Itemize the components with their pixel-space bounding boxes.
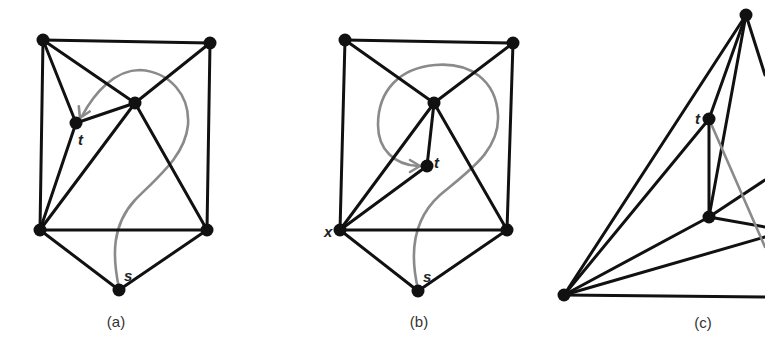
graph-edge	[43, 40, 210, 43]
caption-b: (b)	[410, 313, 428, 330]
graph-edge	[40, 103, 135, 230]
panel-b-graph: tsx	[323, 34, 520, 298]
graph-edge	[345, 40, 513, 43]
vertex-label: s	[423, 268, 431, 285]
panel-a-graph: ts	[34, 34, 217, 297]
vertex-t	[703, 113, 716, 126]
vertex-s	[113, 284, 126, 297]
caption-a: (a)	[107, 313, 125, 330]
vertex-tl	[339, 34, 352, 47]
planar-graph-figure: ts tsx t (a) (b) (c)	[0, 0, 765, 345]
graph-edge	[40, 123, 76, 230]
graph-edge	[564, 217, 709, 295]
graph-edge	[434, 103, 507, 230]
vertex-bl	[558, 289, 571, 302]
vertex-t	[421, 160, 434, 173]
graph-edge	[564, 119, 709, 295]
graph-edge	[434, 43, 513, 103]
vertex-label: x	[323, 223, 333, 240]
vertex-br	[201, 224, 214, 237]
graph-edge	[340, 40, 345, 230]
vertex-t	[70, 117, 83, 130]
graph-edge	[564, 15, 746, 295]
vertex-label: t	[434, 154, 440, 171]
vertex-label: t	[695, 110, 701, 127]
panel-c-graph: t	[558, 9, 765, 302]
vertex-m	[703, 211, 716, 224]
graph-edge	[207, 43, 210, 230]
vertex-tr	[507, 37, 520, 50]
graph-edge	[564, 295, 765, 297]
route-line	[709, 119, 765, 247]
graph-edge	[340, 166, 427, 230]
vertex-c	[129, 97, 142, 110]
graph-edge	[746, 15, 765, 75]
vertex-c	[428, 97, 441, 110]
caption-c: (c)	[694, 314, 712, 331]
graph-edge	[135, 103, 207, 230]
graph-edge	[564, 237, 765, 295]
vertex-label: s	[124, 267, 132, 284]
vertex-s	[412, 285, 425, 298]
graph-edge	[709, 15, 746, 119]
vertex-x	[334, 224, 347, 237]
graph-edge	[507, 43, 513, 230]
vertex-bl	[34, 224, 47, 237]
vertex-tl	[37, 34, 50, 47]
graph-edge	[418, 230, 507, 291]
vertex-label: t	[78, 131, 84, 148]
graph-edge	[340, 230, 418, 291]
vertex-br	[501, 224, 514, 237]
vertex-tr	[204, 37, 217, 50]
graph-edge	[135, 43, 210, 103]
graph-edge	[345, 40, 434, 103]
graph-edge	[40, 230, 119, 290]
graph-edge	[40, 40, 43, 230]
vertex-top	[740, 9, 753, 22]
